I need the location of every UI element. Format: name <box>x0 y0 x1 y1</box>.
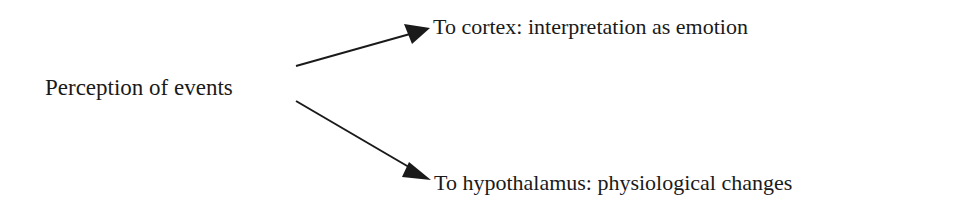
arrow-to-cortex <box>296 24 430 66</box>
arrows-layer <box>0 0 956 207</box>
arrow-to-hypothalamus <box>296 101 431 180</box>
